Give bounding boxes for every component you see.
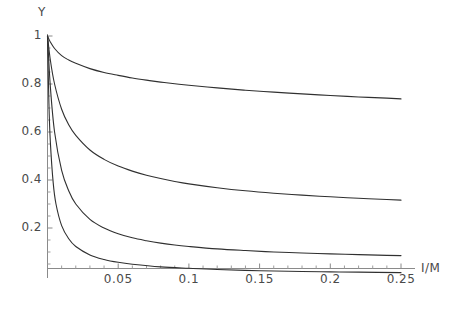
x-tick-label: 0.05 [93,272,143,286]
data-curves [48,36,402,273]
data-curve [48,36,402,256]
x-tick-label: 0.25 [376,272,426,286]
chart-container: Y I/M 0.20.40.60.81 0.050.10.150.20.25 [0,0,467,313]
y-axis-title: Y [38,5,46,19]
x-tick-label: 0.15 [235,272,285,286]
x-tick-label: 0.2 [305,272,355,286]
y-tick-label: 0.8 [0,76,42,90]
y-tick-label: 0.6 [0,124,42,138]
data-curve [48,36,402,99]
y-tick-label: 1 [0,28,42,42]
y-tick-label: 0.2 [0,220,42,234]
axis-ticks [48,36,402,269]
data-curve [48,36,402,200]
x-tick-label: 0.1 [164,272,214,286]
chart-plot-area [0,0,467,313]
y-tick-label: 0.4 [0,172,42,186]
